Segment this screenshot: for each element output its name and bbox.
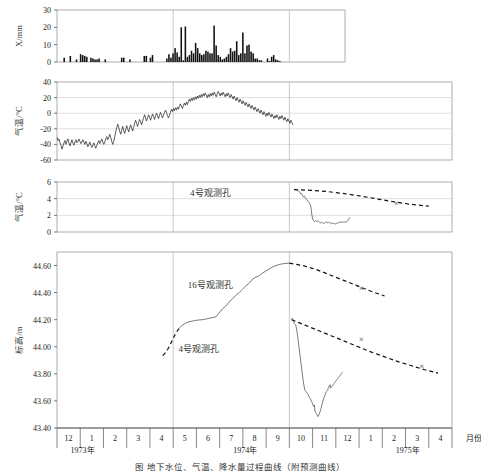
- xaxis-month-label: 11: [320, 434, 328, 443]
- xaxis-month-label: 2: [392, 434, 396, 443]
- precipitation-bar: [183, 60, 185, 62]
- air-temperature-yaxis-title: 气温/°C: [14, 106, 24, 136]
- xaxis-month-label: 2: [113, 434, 117, 443]
- precipitation-ytick-label: 10: [43, 41, 51, 50]
- precipitation-bar: [187, 57, 189, 62]
- xaxis-month-label: 4: [160, 434, 164, 443]
- precipitation-bar: [238, 55, 240, 62]
- precipitation-bar: [121, 58, 123, 62]
- water-level-series-line: [292, 318, 343, 416]
- precipitation-bar: [236, 41, 238, 62]
- ground-temperature-ytick-label: 6: [47, 178, 51, 187]
- precipitation-bar: [248, 45, 250, 62]
- xaxis-year-label: 1973年: [71, 445, 95, 455]
- water-level-ytick-label: 43.60: [33, 397, 51, 406]
- annotation-panel3-well: 4号观测孔: [190, 188, 231, 198]
- xaxis-year-label: 1974年: [233, 445, 257, 455]
- precipitation-bar: [174, 48, 176, 62]
- precipitation-bar: [228, 54, 230, 62]
- precipitation-bar: [176, 52, 178, 62]
- xaxis-month-label: 12: [65, 434, 73, 443]
- water-level-marker: ×: [419, 361, 424, 371]
- precipitation-bar: [269, 61, 271, 62]
- water-level-series-line: [292, 320, 438, 373]
- precipitation-bar: [170, 58, 172, 62]
- precipitation-bar: [144, 56, 146, 62]
- xaxis-month-label: 1: [369, 434, 373, 443]
- precipitation-bar: [254, 59, 256, 62]
- precipitation-bar: [195, 43, 197, 62]
- ground-temperature-series-line: [294, 190, 429, 207]
- air-temperature-ytick-label: 40: [43, 78, 51, 87]
- precipitation-bar: [84, 56, 86, 62]
- precipitation-bar: [246, 46, 248, 62]
- precipitation-bar: [189, 55, 191, 62]
- water-level-ytick-label: 44.60: [33, 262, 51, 271]
- precipitation-bar: [209, 53, 211, 62]
- precipitation-bar: [193, 53, 195, 62]
- precipitation-bar: [63, 58, 65, 62]
- precipitation-bar: [185, 26, 187, 62]
- precipitation-bar: [129, 59, 131, 62]
- xaxis-title: 月份: [466, 433, 481, 443]
- water-level-yaxis-title: 标高/m: [14, 326, 24, 353]
- precipitation-bar: [219, 57, 221, 62]
- precipitation-bar: [234, 51, 236, 62]
- ground-temperature-ytick-label: 4: [47, 195, 51, 204]
- xaxis-month-label: 1: [90, 434, 94, 443]
- precipitation-bar: [273, 55, 275, 62]
- precipitation-bar: [240, 53, 242, 62]
- precipitation-bar: [150, 58, 152, 62]
- precipitation-bar: [166, 59, 168, 62]
- water-level-ytick-label: 44.20: [33, 316, 51, 325]
- precipitation-bar: [146, 56, 148, 62]
- precipitation-bar: [215, 46, 217, 62]
- precipitation-ytick-label: 0: [47, 58, 51, 67]
- precipitation-bar: [277, 60, 279, 62]
- air-temperature-ytick-label: -60: [40, 156, 51, 165]
- water-level-ytick-label: 44.00: [33, 343, 51, 352]
- water-level-marker: ×: [359, 334, 364, 344]
- precipitation-bar: [94, 59, 96, 62]
- precipitation-bar: [230, 48, 232, 62]
- precipitation-bar: [199, 53, 201, 62]
- water-level-plot-frame: [57, 252, 452, 428]
- precipitation-bar: [92, 59, 94, 62]
- xaxis-month-label: 12: [343, 434, 351, 443]
- precipitation-bar: [90, 58, 92, 62]
- precipitation-bar: [224, 59, 226, 62]
- precipitation-bar: [205, 51, 207, 62]
- precipitation-bar: [104, 59, 106, 62]
- xaxis-month-label: 4: [438, 434, 442, 443]
- ground-temperature-ytick-label: 2: [47, 211, 51, 220]
- water-level-ytick-label: 43.40: [33, 424, 51, 433]
- precipitation-bar: [271, 57, 273, 62]
- xaxis-month-label: 10: [297, 434, 305, 443]
- figure-root: 0102030X/mm-60-40-2002040气温/°C0246气温/°C×…: [0, 0, 481, 473]
- precipitation-bar: [259, 60, 261, 62]
- precipitation-bar: [244, 53, 246, 62]
- precipitation-bar: [252, 53, 254, 62]
- precipitation-bar: [256, 59, 258, 62]
- annotation-well-4: 4号观测孔: [178, 344, 219, 354]
- xaxis-month-label: 3: [415, 434, 419, 443]
- xaxis-month-label: 6: [206, 434, 210, 443]
- precipitation-bar: [226, 57, 228, 62]
- annotation-well-16: 16号观测孔: [188, 280, 233, 290]
- ground-temperature-series-line: [294, 189, 350, 224]
- precipitation-bar: [267, 59, 269, 62]
- ground-temperature-yaxis-title: 气温/°C: [14, 192, 24, 222]
- precipitation-bar: [168, 54, 170, 62]
- water-level-series-line: [179, 263, 289, 328]
- precipitation-bar: [82, 55, 84, 62]
- xaxis-month-label: 7: [229, 434, 233, 443]
- precipitation-bar: [96, 59, 98, 62]
- precipitation-bar: [207, 52, 209, 62]
- air-temperature-line: [57, 91, 293, 149]
- precipitation-ytick-label: 20: [43, 23, 51, 32]
- precipitation-bar: [70, 56, 72, 62]
- precipitation-bar: [279, 61, 281, 62]
- air-temperature-ytick-label: 0: [47, 109, 51, 118]
- water-level-series-line: [163, 328, 179, 355]
- precipitation-bar: [197, 48, 199, 62]
